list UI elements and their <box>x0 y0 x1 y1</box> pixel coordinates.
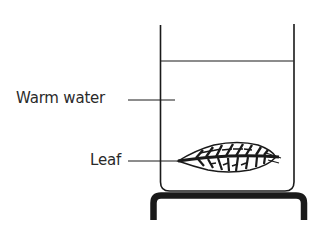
beaker-leaf-diagram: Warm water Leaf <box>0 0 316 234</box>
leaf-label: Leaf <box>90 153 121 168</box>
stand <box>154 196 305 221</box>
warm-water-label: Warm water <box>16 91 105 106</box>
leaf-icon <box>178 143 281 173</box>
diagram-canvas <box>0 0 316 234</box>
